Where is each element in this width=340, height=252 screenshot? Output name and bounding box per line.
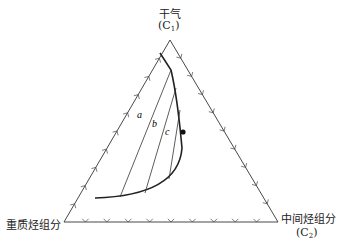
vertex-formula-right: (C2) (296, 226, 317, 240)
vertex-label-right: 中间烃组分 (281, 210, 336, 226)
tie-line-label-c: c (165, 126, 170, 137)
tie-line-a (120, 70, 171, 197)
tie-line-label-b: b (152, 118, 157, 129)
tie-line-label-a: a (137, 109, 142, 120)
ternary-triangle (64, 40, 278, 222)
formula-end: ) (175, 19, 179, 32)
formula-end: ) (313, 226, 317, 239)
formula-main: (C (158, 19, 171, 32)
critical-point (180, 129, 185, 134)
vertex-label-left: 重质烃组分 (6, 216, 61, 232)
axis-ticks (70, 54, 268, 222)
tie-line-b (145, 88, 176, 193)
formula-main: (C (296, 226, 309, 239)
vertex-formula-top: (C1) (158, 19, 179, 33)
